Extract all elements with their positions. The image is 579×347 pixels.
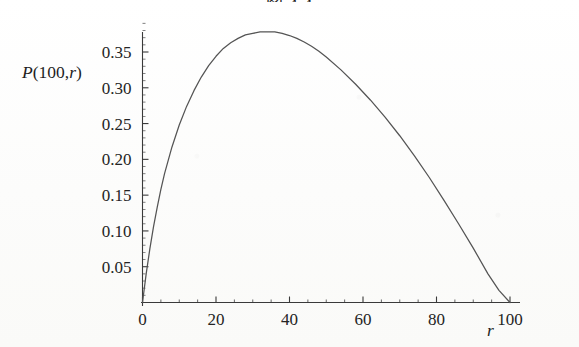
y-tick-label-0.15: 0.15 (102, 186, 132, 205)
data-curve-p100r (143, 32, 511, 303)
x-tick-label-40: 40 (281, 310, 298, 329)
x-axis-tick-labels: 020406080100 (138, 310, 523, 329)
x-axis-title: r (487, 320, 494, 340)
x-tick-label-20: 20 (208, 310, 225, 329)
plot-area: 020406080100 0.050.100.150.200.250.300.3… (0, 0, 579, 347)
y-tick-label-0.20: 0.20 (102, 150, 132, 169)
y-tick-label-0.30: 0.30 (102, 79, 132, 98)
figure-page: 图 4.4 020406080100 0.050.100.150.200.250… (0, 0, 579, 347)
x-tick-label-0: 0 (138, 310, 147, 329)
y-axis-tick-labels: 0.050.100.150.200.250.300.35 (102, 43, 132, 277)
y-tick-label-0.05: 0.05 (102, 258, 132, 277)
y-axis-title: P(100,r) (21, 62, 82, 82)
y-tick-label-0.25: 0.25 (102, 115, 132, 134)
y-axis-major-ticks (143, 52, 149, 267)
y-tick-label-0.10: 0.10 (102, 222, 132, 241)
y-tick-label-0.35: 0.35 (102, 43, 132, 62)
x-tick-label-100: 100 (497, 310, 523, 329)
x-tick-label-80: 80 (428, 310, 445, 329)
x-tick-label-60: 60 (355, 310, 372, 329)
